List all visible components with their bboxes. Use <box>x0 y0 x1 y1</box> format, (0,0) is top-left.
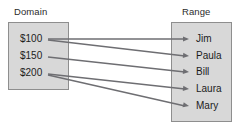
range-item-2: Paula <box>196 51 222 61</box>
range-item-5: Mary <box>196 101 218 111</box>
range-item-3: Bill <box>196 67 209 77</box>
range-item-1: Jim <box>196 34 212 44</box>
range-item-4: Laura <box>196 84 222 94</box>
domain-column-title: Domain <box>14 6 47 17</box>
mapping-diagram: Domain Range $100 $150 $200 Jim Paula Bi… <box>0 0 236 131</box>
domain-item-2: $150 <box>20 51 42 61</box>
range-column-title: Range <box>182 6 211 17</box>
domain-item-3: $200 <box>20 68 42 78</box>
domain-item-1: $100 <box>20 34 42 44</box>
